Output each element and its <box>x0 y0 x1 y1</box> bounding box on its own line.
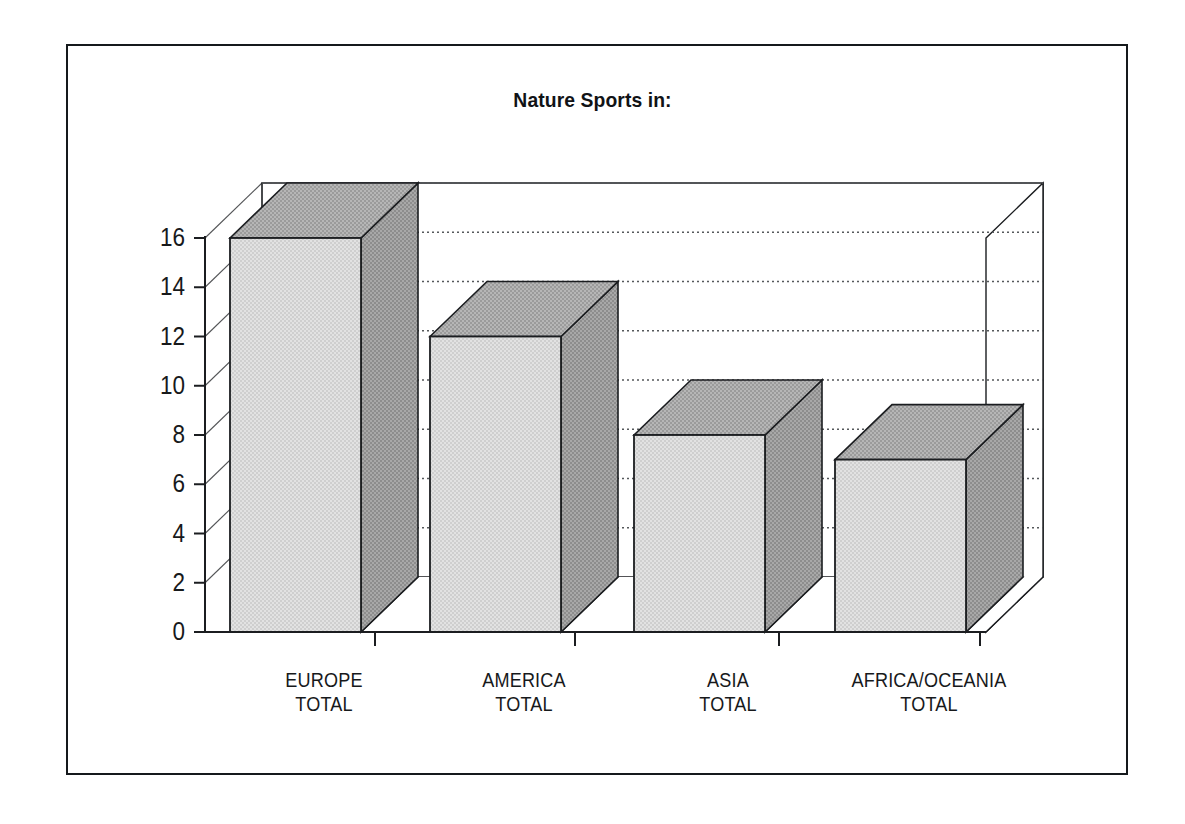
plot-geometry <box>194 183 1043 646</box>
bar-2 <box>634 380 822 632</box>
bar-side-face <box>561 282 618 633</box>
x-axis-category-line: AFRICA/OCEANIA <box>817 668 1041 692</box>
x-axis-category-line: TOTAL <box>212 692 436 716</box>
y-axis-tick-label: 4 <box>136 521 185 546</box>
bar-front-face <box>835 460 966 632</box>
bar-0 <box>230 183 418 632</box>
bar-3 <box>835 405 1023 632</box>
chart-page: Nature Sports in: <box>0 0 1185 824</box>
x-axis-category-line: AMERICA <box>412 668 636 692</box>
y-axis-tick-label: 6 <box>136 471 185 496</box>
x-axis-category-label: AFRICA/OCEANIATOTAL <box>817 668 1041 715</box>
y-axis-tick-label: 0 <box>136 619 185 644</box>
x-axis-category-line: TOTAL <box>412 692 636 716</box>
bar-side-face <box>361 183 418 632</box>
y-axis-tick-label: 16 <box>136 225 185 250</box>
bar-front-face <box>230 238 361 632</box>
x-axis-category-line: TOTAL <box>616 692 840 716</box>
bar-1 <box>430 282 618 633</box>
x-axis-category-line: ASIA <box>616 668 840 692</box>
bar-front-face <box>634 435 765 632</box>
y-axis-tick-label: 8 <box>136 422 185 447</box>
y-axis-tick-label: 14 <box>136 274 185 299</box>
x-axis-category-label: EUROPETOTAL <box>212 668 436 715</box>
x-axis-category-line: EUROPE <box>212 668 436 692</box>
y-axis-tick-label: 10 <box>136 373 185 398</box>
y-axis-tick-label: 12 <box>136 324 185 349</box>
y-axis-tick-label: 2 <box>136 570 185 595</box>
bar-front-face <box>430 337 561 633</box>
x-axis-category-label: AMERICATOTAL <box>412 668 636 715</box>
x-axis-category-label: ASIATOTAL <box>616 668 840 715</box>
x-axis-category-line: TOTAL <box>817 692 1041 716</box>
